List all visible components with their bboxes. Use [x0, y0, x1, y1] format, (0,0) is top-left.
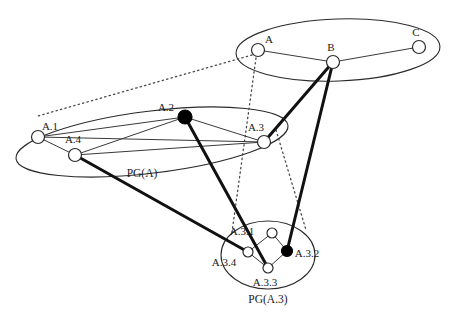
node-B[interactable]: [327, 56, 340, 69]
cluster-label-pga3: PG(A.3): [248, 293, 287, 306]
node-A.3.3[interactable]: [263, 263, 273, 273]
node-label-A.1: A.1: [42, 120, 58, 132]
node-label-A.3.3: A.3.3: [253, 276, 278, 288]
node-A[interactable]: [252, 44, 265, 57]
node-C[interactable]: [413, 41, 426, 54]
node-label-C: C: [412, 26, 419, 38]
node-A.3.2[interactable]: [282, 246, 293, 257]
edge-B-C: [333, 47, 419, 62]
node-A.4[interactable]: [69, 149, 82, 162]
node-A.3.4[interactable]: [243, 247, 253, 257]
dotted-edge-1: [232, 58, 256, 232]
node-A.3[interactable]: [258, 136, 271, 149]
node-labels-layer: ABCA.1A.2A.3A.4A.3.1A.3.4A.3.3A.3.2: [42, 26, 420, 288]
node-label-A.2: A.2: [158, 101, 174, 113]
node-label-A.3: A.3: [248, 121, 265, 133]
node-label-A.3.2: A.3.2: [295, 247, 319, 259]
thick-edge-A.4-A.3.4: [75, 155, 248, 252]
node-label-A.3.4: A.3.4: [212, 256, 237, 268]
node-label-A.4: A.4: [65, 133, 82, 145]
node-A.1[interactable]: [32, 131, 45, 144]
peer-group-diagram: ABCA.1A.2A.3A.4A.3.1A.3.4A.3.3A.3.2 PG(A…: [0, 0, 458, 324]
edge-A.4-A.2: [75, 117, 185, 155]
edge-A.1-A.2: [38, 117, 185, 137]
edge-A-B: [258, 50, 333, 62]
node-A.2[interactable]: [178, 110, 192, 124]
node-label-A.3.1: A.3.1: [230, 225, 254, 237]
diagram-root: ABCA.1A.2A.3A.4A.3.1A.3.4A.3.3A.3.2 PG(A…: [0, 0, 458, 324]
cluster-ellipse-top: [235, 15, 441, 84]
edge-A.4-A.3: [75, 142, 264, 155]
node-label-A: A: [265, 33, 273, 45]
thin-edges-layer: [38, 47, 419, 268]
node-label-B: B: [327, 41, 334, 53]
dotted-edge-2: [276, 130, 306, 230]
node-A.3.1[interactable]: [267, 228, 277, 238]
nodes-layer: [32, 41, 426, 274]
cluster-label-pga: PG(A): [127, 167, 158, 180]
